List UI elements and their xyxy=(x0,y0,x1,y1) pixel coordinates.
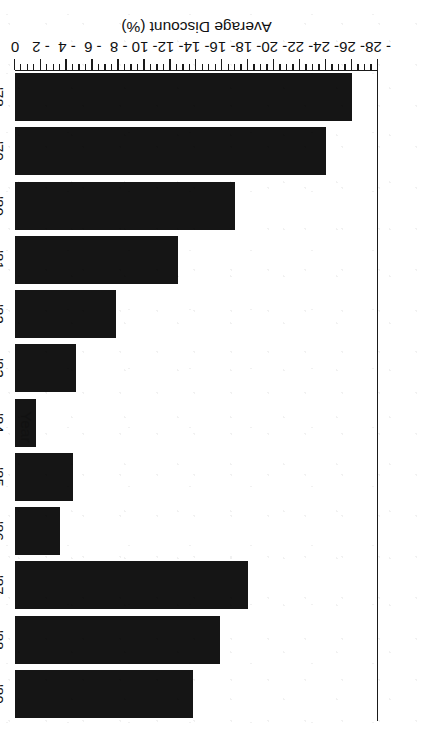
value-tick-minor xyxy=(338,64,339,70)
category-tick-label: '83 xyxy=(0,351,7,385)
value-tick-major xyxy=(65,59,66,70)
value-tick-major xyxy=(14,59,15,70)
bar xyxy=(15,507,60,555)
value-tick-major xyxy=(40,59,41,70)
value-tick-major xyxy=(91,59,92,70)
bar xyxy=(15,290,116,338)
value-tick-minor xyxy=(189,64,190,70)
value-tick-minor xyxy=(163,64,164,70)
value-tick-major xyxy=(143,59,144,70)
value-tick-minor xyxy=(208,64,209,70)
category-tick-label: '80 xyxy=(0,189,7,223)
category-tick-label: '89 xyxy=(0,677,7,711)
bar xyxy=(15,561,248,609)
chart-figure: - 28- 26- 24- 22- 20- 18- 16- 14- 12- 10… xyxy=(0,0,423,733)
category-tick-label: '84 xyxy=(0,406,7,440)
value-tick-minor xyxy=(234,64,235,70)
value-tick-minor xyxy=(78,64,79,70)
value-tick-major xyxy=(247,59,248,70)
category-tick-label: '86 xyxy=(0,514,7,548)
bar xyxy=(15,670,193,718)
value-tick-major xyxy=(195,59,196,70)
bar xyxy=(15,453,73,501)
value-tick-major xyxy=(169,59,170,70)
value-tick-minor xyxy=(286,64,287,70)
bar xyxy=(15,344,76,392)
value-tick-minor xyxy=(150,64,151,70)
value-tick-minor xyxy=(215,64,216,70)
value-tick-major xyxy=(325,59,326,70)
value-tick-minor xyxy=(370,64,371,70)
value-tick-minor xyxy=(20,64,21,70)
value-tick-minor xyxy=(53,64,54,70)
value-tick-minor xyxy=(279,64,280,70)
value-tick-minor xyxy=(85,64,86,70)
category-tick-label: '79 xyxy=(0,134,7,168)
value-tick-minor xyxy=(156,64,157,70)
bar xyxy=(15,127,326,175)
value-tick-minor xyxy=(33,64,34,70)
value-tick-minor xyxy=(124,64,125,70)
value-tick-minor xyxy=(27,64,28,70)
value-tick-minor xyxy=(176,64,177,70)
value-tick-minor xyxy=(182,64,183,70)
value-tick-minor xyxy=(292,64,293,70)
value-tick-minor xyxy=(364,64,365,70)
category-tick-label: '85 xyxy=(0,460,7,494)
value-tick-minor xyxy=(253,64,254,70)
bar xyxy=(15,616,220,664)
value-tick-minor xyxy=(137,64,138,70)
value-tick-major xyxy=(299,59,300,70)
value-tick-minor xyxy=(260,64,261,70)
value-tick-minor xyxy=(111,64,112,70)
bar xyxy=(15,73,352,121)
value-tick-minor xyxy=(46,64,47,70)
value-axis-title: Average Discount (%) xyxy=(15,18,378,36)
value-tick-minor xyxy=(312,64,313,70)
value-tick-minor xyxy=(98,64,99,70)
category-axis-title: Year xyxy=(15,397,35,457)
bar xyxy=(15,182,235,230)
value-tick-minor xyxy=(202,64,203,70)
category-tick-label: '81 xyxy=(0,243,7,277)
value-tick-major xyxy=(351,59,352,70)
value-tick-minor xyxy=(59,64,60,70)
value-tick-minor xyxy=(318,64,319,70)
category-tick-label: '78 xyxy=(0,80,7,114)
bar-series xyxy=(15,70,378,721)
bar xyxy=(15,236,178,284)
value-tick-major xyxy=(117,59,118,70)
value-tick-major xyxy=(273,59,274,70)
value-tick-minor xyxy=(357,64,358,70)
category-axis: '78'79'80'81'82'83'84'85'86'87'88'89 xyxy=(0,70,15,721)
value-tick-label: 0 xyxy=(0,39,38,56)
value-tick-minor xyxy=(104,64,105,70)
value-tick-major xyxy=(221,59,222,70)
category-tick-label: '82 xyxy=(0,297,7,331)
value-tick-minor xyxy=(130,64,131,70)
category-tick-label: '88 xyxy=(0,623,7,657)
value-tick-minor xyxy=(344,64,345,70)
value-axis: - 28- 26- 24- 22- 20- 18- 16- 14- 12- 10… xyxy=(15,69,378,70)
value-tick-minor xyxy=(331,64,332,70)
value-tick-minor xyxy=(240,64,241,70)
value-tick-minor xyxy=(305,64,306,70)
value-tick-major xyxy=(377,59,378,70)
value-tick-minor xyxy=(266,64,267,70)
value-tick-minor xyxy=(72,64,73,70)
category-tick-label: '87 xyxy=(0,568,7,602)
value-tick-minor xyxy=(228,64,229,70)
